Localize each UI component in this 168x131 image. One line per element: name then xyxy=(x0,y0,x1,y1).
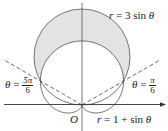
angle-label-5pi-6: θ = 5π6 xyxy=(5,76,33,95)
angle-label-pi-6: θ = π6 xyxy=(132,76,156,95)
origin-label: O xyxy=(70,113,78,125)
circle-equation-label: r = 3 sin θ xyxy=(109,9,154,21)
cardioid-equation-label: r = 1 + sin θ xyxy=(97,113,151,125)
x-axis-arrow xyxy=(160,102,166,106)
